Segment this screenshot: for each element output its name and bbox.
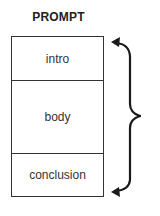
arrowhead-top-icon [111,37,120,47]
arrowhead-bottom-icon [111,187,120,197]
brace-arrow-connector [0,0,160,216]
curly-brace-icon [116,43,140,191]
